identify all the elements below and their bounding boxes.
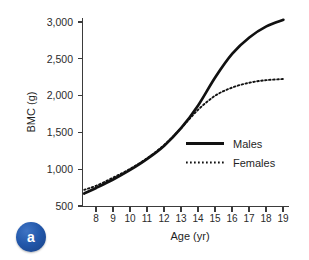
y-tick-label-1000: 1,000 — [47, 163, 73, 175]
series-line-females — [84, 79, 283, 190]
x-tick-label-13: 13 — [175, 213, 187, 224]
figure-panel: 3,000 2,500 2,000 1,500 1,000 500 8 9 — [0, 0, 309, 260]
x-tick-label-15: 15 — [209, 213, 221, 224]
x-tick-label-19: 19 — [277, 213, 289, 224]
y-axis-ticks — [78, 22, 83, 206]
x-tick-label-12: 12 — [158, 213, 170, 224]
y-tick-label-1500: 1,500 — [47, 126, 73, 138]
x-tick-label-10: 10 — [124, 213, 136, 224]
legend-label-males: Males — [233, 138, 263, 150]
bmc-age-line-chart: 3,000 2,500 2,000 1,500 1,000 500 8 9 — [0, 0, 309, 260]
x-tick-label-8: 8 — [93, 213, 99, 224]
x-tick-label-14: 14 — [192, 213, 204, 224]
legend-label-females: Females — [233, 157, 276, 169]
x-tick-label-9: 9 — [110, 213, 116, 224]
x-tick-label-18: 18 — [260, 213, 272, 224]
panel-badge-label: a — [27, 230, 35, 244]
x-tick-label-17: 17 — [243, 213, 255, 224]
y-axis-tick-labels: 3,000 2,500 2,000 1,500 1,000 500 — [47, 16, 73, 212]
y-axis-title: BMC (g) — [25, 92, 37, 133]
x-tick-label-16: 16 — [226, 213, 238, 224]
x-tick-label-11: 11 — [142, 213, 153, 224]
y-tick-label-500: 500 — [55, 200, 73, 212]
panel-badge: a — [16, 222, 46, 252]
x-axis-title: Age (yr) — [170, 230, 209, 242]
y-tick-label-2000: 2,000 — [47, 89, 73, 101]
chart-legend: Males Females — [186, 138, 276, 169]
y-tick-label-3000: 3,000 — [47, 16, 73, 28]
y-tick-label-2500: 2,500 — [47, 53, 73, 65]
x-axis-tick-labels: 8 9 10 11 12 13 14 15 16 17 18 19 — [93, 213, 289, 224]
x-axis-ticks — [96, 207, 283, 212]
